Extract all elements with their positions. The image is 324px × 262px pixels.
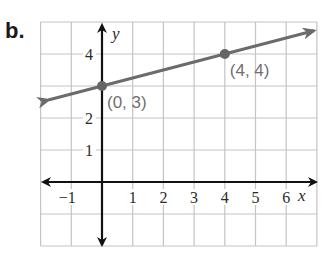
x-tick-label: 2 [159, 189, 167, 206]
data-point [220, 49, 230, 59]
y-tick-label: 4 [85, 46, 93, 63]
x-tick-labels: −1123456 [57, 189, 292, 206]
y-tick-labels: 421 [83, 45, 96, 159]
data-point [97, 81, 107, 91]
coordinate-plane: −1123456 421 y x (0, 3)(4, 4) [0, 0, 324, 262]
x-tick-label: 1 [129, 189, 137, 206]
point-label: (4, 4) [230, 61, 270, 80]
x-tick-label: 4 [221, 189, 229, 206]
x-tick-label: 3 [190, 189, 198, 206]
x-tick-label: 6 [282, 189, 290, 206]
grid [41, 22, 317, 246]
x-tick-label: 5 [252, 189, 260, 206]
y-tick-label: 2 [85, 110, 93, 127]
y-tick-label: 1 [85, 142, 93, 159]
x-tick-label: −1 [59, 189, 76, 206]
point-label: (0, 3) [107, 93, 147, 112]
y-axis-label: y [110, 24, 120, 43]
x-axis-label: x [297, 186, 306, 205]
data-line [48, 31, 314, 100]
